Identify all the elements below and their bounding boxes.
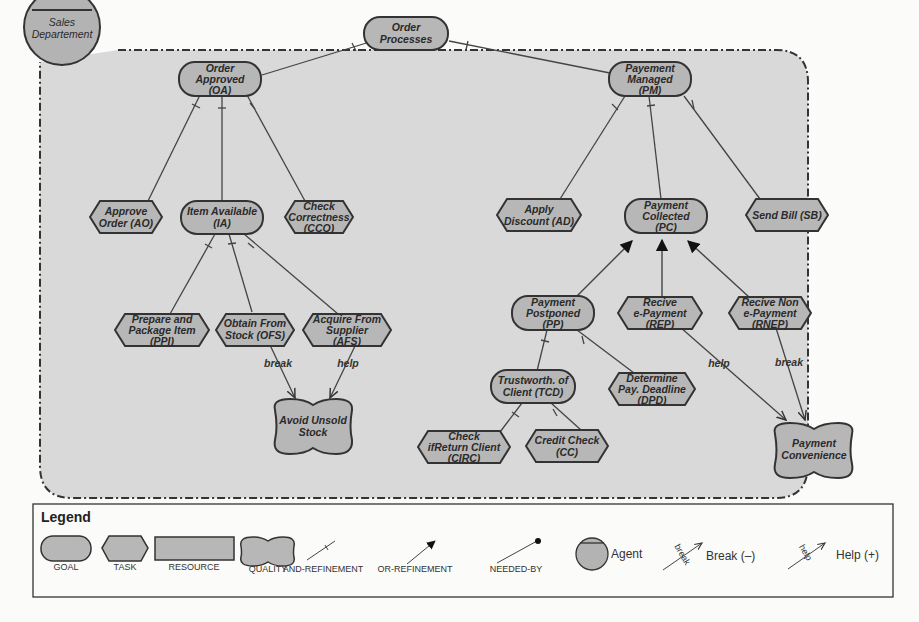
node-label: Stock (OFS) — [225, 329, 286, 341]
node-label: (IA) — [213, 217, 231, 229]
node-label: (CCO) — [304, 222, 335, 234]
node-label: (PP) — [543, 318, 565, 330]
contrib-label-afs-aus: help — [337, 357, 359, 369]
node-label: Approve — [104, 205, 148, 217]
node-label: Client (TCD) — [503, 386, 564, 398]
task-approve-order[interactable]: Approve Order (AO) — [90, 201, 162, 233]
contrib-label-ofs-aus: break — [264, 357, 293, 369]
node-label: Send Bill (SB) — [752, 209, 822, 221]
node-label: Item Available — [187, 205, 257, 217]
contrib-label-rnep-pcv: break — [775, 356, 804, 368]
node-label: Discount (AD) — [504, 215, 574, 227]
goal-order-processes[interactable]: Order Processes — [364, 17, 448, 50]
task-apply-discount[interactable]: Apply Discount (AD) — [497, 199, 581, 231]
legend-title: Legend — [41, 509, 91, 525]
node-label: Apply — [523, 203, 554, 215]
quality-payment-convenience[interactable]: Payment Convenience — [775, 423, 853, 478]
task-acquire-from-supplier[interactable]: Acquire From Supplier (AFS) — [303, 313, 391, 347]
agent-label-2: Departement — [32, 28, 94, 40]
node-label: (CC) — [556, 446, 579, 458]
node-label: Stock — [299, 426, 329, 438]
legend-help-label: Help (+) — [836, 548, 879, 562]
task-recive-e-payment[interactable]: Recive e-Payment (REP) — [618, 296, 702, 330]
node-label: (PM) — [639, 84, 662, 96]
legend-task-label: TASK — [114, 562, 137, 572]
goal-payement-managed[interactable]: Payement Managed (PM) — [609, 62, 691, 96]
node-label: Processes — [380, 33, 433, 45]
task-determine-pay-deadline[interactable]: Determine Pay. Deadline (DPD) — [609, 372, 695, 406]
quality-avoid-unsold-stock[interactable]: Avoid Unsold Stock — [275, 399, 352, 454]
goal-payment-postponed[interactable]: Payment Postponed (PP) — [512, 296, 594, 330]
task-recive-non-e-payment[interactable]: Recive Non e-Payment (RNEP) — [729, 296, 811, 330]
goal-payment-collected[interactable]: Payment Collected (PC) — [625, 199, 707, 233]
actor-boundary — [40, 50, 808, 498]
task-prepare-package-item[interactable]: Prepare and Package Item (PPI) — [115, 313, 209, 347]
agent-sales-department[interactable]: Sales Departement — [24, 0, 100, 65]
node-label: Convenience — [781, 449, 847, 461]
node-label: Order — [392, 21, 422, 33]
node-label: Obtain From — [224, 317, 286, 329]
goal-item-available[interactable]: Item Available (IA) — [181, 201, 263, 234]
task-check-correctness[interactable]: Check Correctness (CCO) — [285, 200, 353, 234]
goal-trustworthiness-of-client[interactable]: Trustworth. of Client (TCD) — [491, 370, 575, 403]
node-label: Payment — [792, 437, 836, 449]
node-label: Trustworth. of — [498, 374, 570, 386]
node-label: (DPD) — [637, 394, 667, 406]
legend-needed-by-label: NEEDED-BY — [490, 564, 543, 574]
node-label: Order (AO) — [99, 217, 154, 229]
legend-agent-label: Agent — [611, 547, 643, 561]
task-obtain-from-stock[interactable]: Obtain From Stock (OFS) — [216, 314, 294, 346]
node-label: (RNEP) — [752, 318, 789, 330]
node-label: (AFS) — [333, 335, 361, 347]
legend-quality-label: QUALITY — [249, 564, 288, 574]
node-label: (PPI) — [150, 335, 174, 347]
legend-goal-label: GOAL — [53, 562, 78, 572]
legend-or-refinement-label: OR-REFINEMENT — [378, 564, 453, 574]
agent-label-1: Sales — [49, 16, 76, 28]
node-label: Credit Check — [535, 434, 601, 446]
node-label: (PC) — [655, 221, 677, 233]
legend: Legend GOAL TASK RESOURCE QUALITY AND-RE… — [33, 504, 893, 597]
goal-order-approved[interactable]: Order Approved (OA) — [179, 62, 261, 96]
legend-break-label: Break (–) — [706, 549, 755, 563]
task-send-bill[interactable]: Send Bill (SB) — [746, 199, 828, 231]
node-label: (CIRC) — [448, 452, 481, 464]
node-label: Avoid Unsold — [278, 414, 347, 426]
istar-diagram: Sales Departement — [0, 0, 919, 622]
legend-goal-shape — [41, 536, 91, 561]
task-check-if-return-client[interactable]: Check ifReturn Client (CIRC) — [418, 430, 510, 464]
legend-quality-shape — [241, 537, 295, 566]
node-label: (REP) — [646, 318, 675, 330]
contrib-label-rep-pcv: help — [708, 357, 730, 369]
legend-task-shape — [102, 536, 148, 561]
node-label: (OA) — [209, 84, 232, 96]
task-credit-check[interactable]: Credit Check (CC) — [526, 430, 608, 462]
legend-resource-label: RESOURCE — [168, 562, 219, 572]
legend-and-refinement-label: AND-REFINEMENT — [283, 564, 364, 574]
legend-resource-shape — [155, 537, 234, 560]
